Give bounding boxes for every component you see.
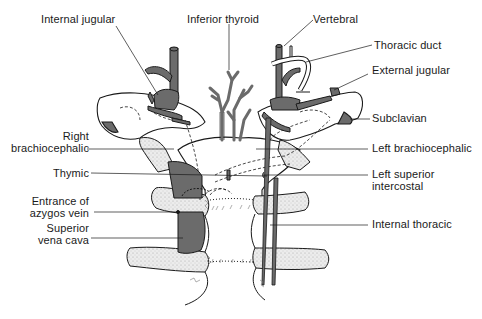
label-thoracic-duct: Thoracic duct: [374, 40, 441, 51]
label-external-jugular: External jugular: [372, 65, 450, 76]
label-entrance-of-azygos-vein: Entrance of azygos vein: [30, 195, 89, 219]
label-left-brachiocephalic: Left brachiocephalic: [372, 143, 472, 154]
label-right-brachiocephalic: Right brachiocephalic: [11, 130, 89, 154]
label-internal-thoracic: Internal thoracic: [372, 219, 452, 230]
label-superior-vena-cava: Superior vena cava: [38, 222, 89, 246]
label-inferior-thyroid: Inferior thyroid: [187, 14, 259, 25]
label-vertebral: Vertebral: [313, 14, 358, 25]
label-internal-jugular: Internal jugular: [41, 14, 115, 25]
label-thymic: Thymic: [53, 168, 89, 179]
label-subclavian: Subclavian: [372, 113, 427, 124]
label-left-superior-intercostal: Left superior intercostal: [372, 168, 434, 192]
inferior-thyroid-veins: [210, 72, 252, 140]
